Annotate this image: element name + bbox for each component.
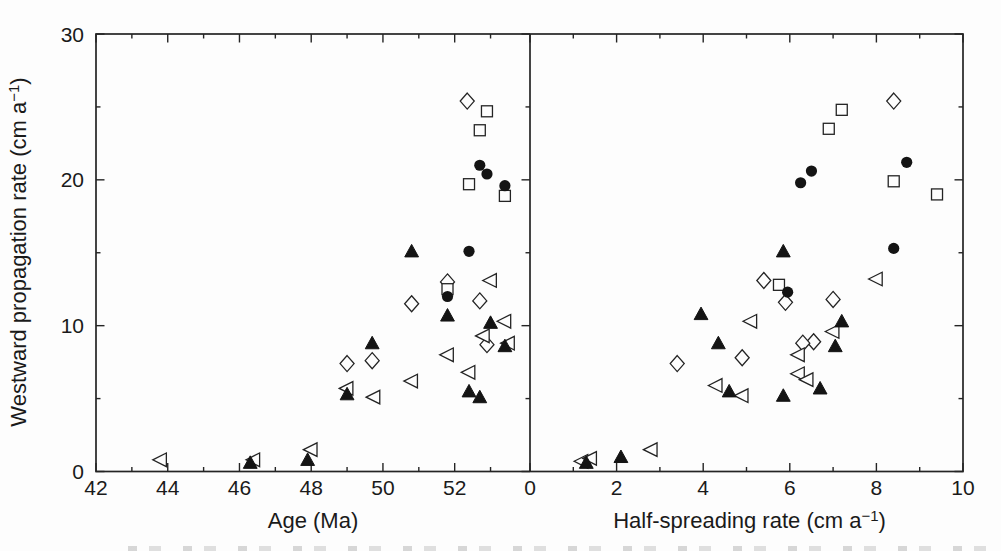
marker-open-diamond <box>757 272 771 288</box>
marker-filled-triangle <box>614 450 628 463</box>
x-axis-title-left: Age (Ma) <box>268 508 358 533</box>
marker-open-square <box>773 279 784 290</box>
marker-open-left-triangle <box>483 274 497 288</box>
x-tick-label: 48 <box>300 476 323 499</box>
marker-filled-triangle <box>828 339 842 352</box>
marker-filled-circle <box>442 291 453 302</box>
y-tick-label: 30 <box>61 23 84 46</box>
marker-open-left-triangle <box>404 374 418 388</box>
marker-filled-triangle <box>462 384 476 397</box>
x-tick-label: 0 <box>524 476 536 499</box>
marker-open-left-triangle <box>497 314 511 328</box>
marker-open-left-triangle <box>869 272 883 286</box>
marker-open-left-triangle <box>791 348 805 362</box>
marker-filled-triangle <box>405 244 419 257</box>
scanned-scatter-figure: 0102030Westward propagation rate (cm a−1… <box>0 0 1001 551</box>
marker-filled-triangle <box>711 336 725 349</box>
y-tick-label: 10 <box>61 314 84 337</box>
marker-open-left-triangle <box>476 329 490 343</box>
marker-filled-circle <box>888 243 899 254</box>
marker-open-diamond <box>405 296 419 312</box>
marker-filled-circle <box>806 165 817 176</box>
marker-filled-triangle <box>776 389 790 402</box>
marker-filled-triangle <box>722 384 736 397</box>
marker-open-left-triangle <box>440 348 454 362</box>
x-tick-label: 44 <box>156 476 180 499</box>
marker-open-diamond <box>826 291 840 307</box>
scatter-plot-svg: 0102030Westward propagation rate (cm a−1… <box>0 0 1001 551</box>
x-tick-label: 4 <box>697 476 709 499</box>
x-tick-label: 42 <box>84 476 107 499</box>
marker-open-diamond <box>473 293 487 309</box>
marker-open-diamond <box>365 353 379 369</box>
marker-open-square <box>823 123 834 134</box>
marker-filled-triangle <box>365 336 379 349</box>
marker-open-left-triangle <box>366 390 380 404</box>
marker-filled-circle <box>474 160 485 171</box>
marker-open-square <box>499 190 510 201</box>
marker-filled-circle <box>795 177 806 188</box>
marker-open-left-triangle <box>303 443 317 457</box>
x-tick-label: 6 <box>784 476 796 499</box>
marker-open-square <box>932 189 943 200</box>
marker-filled-triangle <box>835 314 849 327</box>
marker-filled-circle <box>463 246 474 257</box>
marker-open-left-triangle <box>643 443 657 457</box>
x-tick-label: 8 <box>871 476 883 499</box>
marker-open-left-triangle <box>708 379 722 393</box>
marker-filled-circle <box>901 157 912 168</box>
cropped-caption-fragment <box>128 546 993 551</box>
x-tick-label: 46 <box>228 476 251 499</box>
marker-filled-triangle <box>484 316 498 329</box>
marker-open-square <box>888 176 899 187</box>
marker-open-diamond <box>670 356 684 372</box>
x-tick-label: 52 <box>443 476 466 499</box>
marker-open-diamond <box>340 356 354 372</box>
marker-filled-triangle <box>813 381 827 394</box>
marker-filled-triangle <box>776 244 790 257</box>
marker-open-square <box>474 125 485 136</box>
marker-open-square <box>464 179 475 190</box>
y-tick-label: 0 <box>72 460 84 483</box>
x-tick-label: 10 <box>951 476 974 499</box>
marker-open-square <box>836 104 847 115</box>
x-tick-label: 2 <box>611 476 623 499</box>
marker-filled-circle <box>481 168 492 179</box>
x-tick-label: 50 <box>371 476 394 499</box>
marker-open-diamond <box>887 93 901 109</box>
marker-open-square <box>481 106 492 117</box>
x-axis-title-right: Half-spreading rate (cm a−1) <box>613 507 886 533</box>
marker-open-left-triangle <box>153 453 167 467</box>
marker-open-left-triangle <box>461 366 475 380</box>
marker-filled-triangle <box>441 309 455 322</box>
y-tick-label: 20 <box>61 168 84 191</box>
marker-open-left-triangle <box>734 389 748 403</box>
marker-open-diamond <box>735 350 749 366</box>
marker-open-left-triangle <box>743 314 757 328</box>
y-axis-title: Westward propagation rate (cm a−1) <box>5 77 31 426</box>
marker-open-diamond <box>460 93 474 109</box>
marker-filled-circle <box>782 287 793 298</box>
marker-filled-triangle <box>694 307 708 320</box>
marker-filled-circle <box>499 180 510 191</box>
